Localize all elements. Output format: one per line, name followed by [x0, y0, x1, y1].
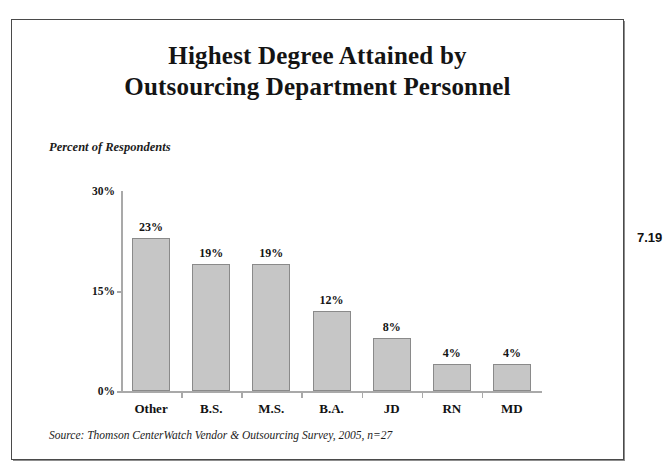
y-tick-label: 15%	[69, 285, 115, 297]
x-tick-mark	[181, 392, 183, 398]
page-number: 7.19	[637, 230, 662, 245]
bar-value-label: 12%	[302, 293, 362, 308]
x-tick-mark	[422, 392, 424, 398]
bar-value-label: 19%	[241, 246, 301, 261]
bar-value-label: 4%	[422, 346, 482, 361]
bar-md	[493, 364, 531, 391]
bar-value-label: 19%	[181, 246, 241, 261]
bar-bs	[192, 264, 230, 391]
bar-chart-plot-area: 0%15%30%23%Other19%B.S.19%M.S.12%B.A.8%J…	[12, 20, 625, 461]
y-tick-label: 0%	[69, 385, 115, 397]
slide-frame: Highest Degree Attained by Outsourcing D…	[11, 19, 624, 460]
y-tick-mark	[117, 391, 122, 393]
x-tick-mark	[482, 392, 484, 398]
x-tick-mark	[301, 392, 303, 398]
bar-ba	[313, 311, 351, 391]
bar-rn	[433, 364, 471, 391]
source-note: Source: Thomson CenterWatch Vendor & Out…	[49, 429, 392, 441]
x-tick-mark	[362, 392, 364, 398]
category-label: MD	[477, 401, 547, 417]
bar-jd	[373, 338, 411, 391]
bar-value-label: 23%	[121, 220, 181, 235]
y-tick-mark	[117, 291, 122, 293]
bar-value-label: 8%	[362, 320, 422, 335]
bar-value-label: 4%	[482, 346, 542, 361]
bar-other	[132, 238, 170, 391]
x-tick-mark	[241, 392, 243, 398]
x-axis-line	[121, 391, 542, 393]
y-tick-label: 30%	[69, 185, 115, 197]
bar-ms	[252, 264, 290, 391]
